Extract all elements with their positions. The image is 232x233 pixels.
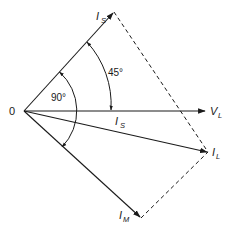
origin-label: 0 (9, 105, 15, 117)
label-is-lower: I S (115, 115, 125, 130)
svg-text:M: M (123, 215, 130, 224)
label-im: I M (119, 209, 130, 224)
svg-text:I: I (115, 115, 118, 127)
label-il: I L (212, 146, 220, 161)
svg-text:S: S (120, 121, 125, 130)
label-is-upper: I S (96, 10, 106, 25)
svg-text:I: I (96, 10, 99, 22)
phasor-is-upper (24, 13, 113, 111)
dashed-line-im-to-il (141, 152, 208, 218)
label-vl: V L (210, 105, 222, 120)
phasor-diagram-svg: 0 I S V L I S I L I M 90° 45° (0, 0, 232, 233)
svg-text:I: I (119, 209, 122, 221)
svg-text:L: L (216, 152, 220, 161)
angle-arc-90 (60, 72, 77, 147)
dashed-line-is-to-il (114, 12, 208, 152)
angle-label-90: 90° (51, 92, 66, 103)
phasor-diagram: 0 I S V L I S I L I M 90° 45° (0, 0, 232, 233)
svg-text:L: L (218, 111, 222, 120)
svg-text:I: I (212, 146, 215, 158)
svg-text:S: S (101, 16, 106, 25)
angle-label-45: 45° (108, 67, 123, 78)
